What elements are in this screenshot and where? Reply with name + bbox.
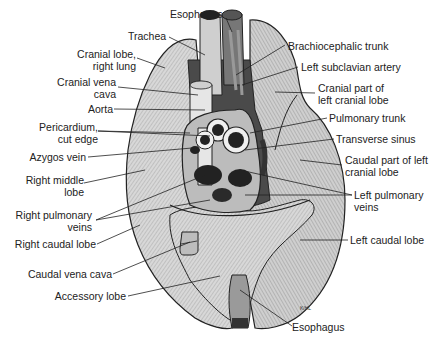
label-line: Right pulmonary (12, 209, 92, 221)
label-left-pulmonary-veins: Left pulmonary veins (354, 189, 423, 213)
label-azygos-vein: Azygos vein (26, 151, 86, 163)
label-line: Cranial vena (56, 76, 116, 88)
label-caudal-part-left-cranial-lobe: Caudal part of left cranial lobe (345, 154, 428, 178)
label-line: right lung (76, 60, 136, 72)
label-esophagus-top: Esophagus (170, 8, 223, 20)
label-line: cava (56, 88, 116, 100)
label-line: cranial lobe (345, 166, 428, 178)
label-pulmonary-trunk: Pulmonary trunk (329, 112, 405, 124)
label-cranial-part-left-cranial-lobe: Cranial part of left cranial lobe (318, 82, 389, 106)
label-line: veins (12, 221, 92, 233)
label-line: veins (354, 201, 423, 213)
label-line: cut edge (36, 133, 98, 145)
label-esophagus-bottom: Esophagus (292, 321, 345, 333)
artist-signature: K/HL (300, 305, 311, 311)
label-line: Cranial part of (318, 82, 389, 94)
label-left-caudal-lobe: Left caudal lobe (350, 234, 424, 246)
label-right-pulmonary-veins: Right pulmonary veins (12, 209, 92, 233)
label-line: Right middle (22, 174, 84, 186)
label-line: Left pulmonary (354, 189, 423, 201)
label-caudal-vena-cava: Caudal vena cava (26, 268, 112, 280)
label-right-caudal-lobe: Right caudal lobe (12, 238, 96, 250)
label-cranial-lobe-right-lung: Cranial lobe, right lung (76, 48, 136, 72)
label-aorta: Aorta (80, 103, 113, 115)
label-cranial-vena-cava: Cranial vena cava (56, 76, 116, 100)
label-trachea: Trachea (128, 30, 166, 42)
label-line: Cranial lobe, (76, 48, 136, 60)
label-line: lobe (22, 186, 84, 198)
label-brachiocephalic-trunk: Brachiocephalic trunk (288, 40, 388, 52)
label-pericardium-cut-edge: Pericardium, cut edge (36, 121, 98, 145)
label-line: Caudal part of left (345, 154, 428, 166)
label-line: left cranial lobe (318, 94, 389, 106)
label-line: Pericardium, (36, 121, 98, 133)
label-accessory-lobe: Accessory lobe (54, 290, 126, 302)
label-right-middle-lobe: Right middle lobe (22, 174, 84, 198)
label-transverse-sinus: Transverse sinus (336, 133, 416, 145)
anatomy-figure: K/HL Esophagus Trachea Cranial lobe, rig… (0, 0, 438, 341)
label-left-subclavian-artery: Left subclavian artery (301, 61, 401, 73)
